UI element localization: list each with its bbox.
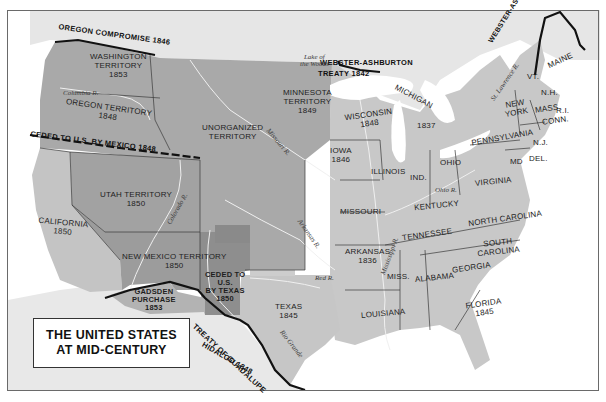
map-title-line-1: THE UNITED STATES [46,328,177,343]
webster-north-label-2: TREATY 1842 [318,69,369,78]
new-mexico-territory-label: NEW MEXICO TERRITORY1850 [122,252,226,270]
missouri-label: MISSOURI [340,207,381,216]
maryland-label: MD [510,157,523,166]
map-title-box: THE UNITED STATES AT MID-CENTURY [33,318,190,368]
indiana-label: IND. [410,173,427,182]
lake-of-the-woods-label: Lake ofthe Woods [300,54,329,68]
columbia-river-label: Columbia R. [63,89,98,97]
utah-territory-label: UTAH TERRITORY1850 [100,190,172,208]
new-jersey-label: N.J. [533,138,548,147]
red-river-label: Red R. [315,274,334,282]
delaware-label: DEL. [529,154,548,163]
michigan-year-label: 1837 [417,121,436,130]
webster-north-label-1: WEBSTER-ASHBURTON [320,58,413,67]
map-title-line-2: AT MID-CENTURY [56,343,166,358]
mississippi-label: MISS. [387,272,410,281]
iowa-label: IOWA1846 [330,146,352,164]
ohio-river-label: Ohio R. [435,186,457,194]
texas-label: TEXAS1845 [275,302,302,320]
vermont-label: VT. [527,72,539,81]
ceded-texas-label: CEDED TOU.S.BY TEXAS1850 [205,271,245,303]
minnesota-territory-label: MINNESOTATERRITORY1849 [283,88,332,115]
ceded-texas-strip [215,225,250,243]
illinois-label: ILLINOIS [371,167,406,176]
washington-territory-label: WASHINGTONTERRITORY1853 [90,52,147,79]
unorganized-territory-label: UNORGANIZEDTERRITORY [202,123,263,141]
gadsden-purchase-label: GADSDENPURCHASE1853 [132,288,176,312]
new-hampshire-label: N.H. [541,88,558,97]
ohio-label: OHIO [440,158,461,167]
